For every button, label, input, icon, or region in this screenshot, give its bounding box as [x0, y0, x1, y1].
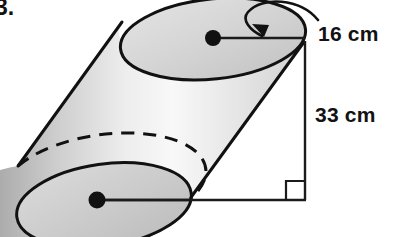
right-angle-marker	[286, 181, 305, 200]
figure-canvas: 3.	[0, 0, 393, 237]
bottom-center-dot	[89, 192, 106, 209]
top-center-dot	[205, 30, 221, 46]
height-dimension-label: 33 cm	[315, 103, 376, 127]
radius-dimension-label: 16 cm	[318, 22, 379, 46]
